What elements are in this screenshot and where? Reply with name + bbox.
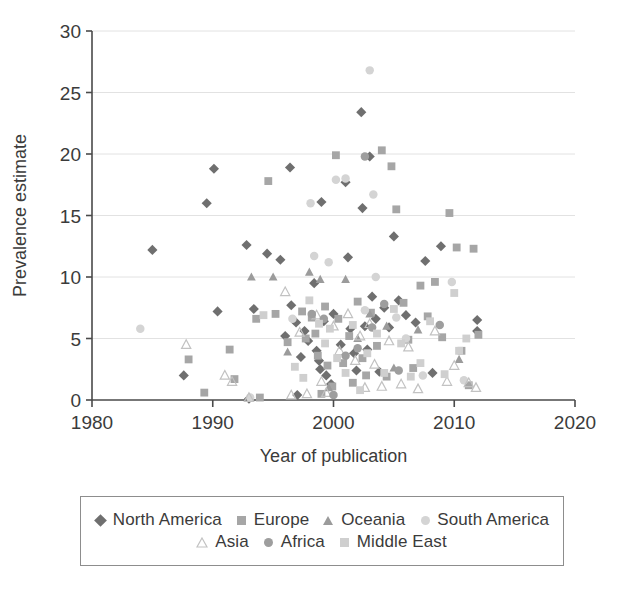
- data-point: [311, 330, 319, 338]
- y-tick-label: 30: [60, 21, 81, 42]
- data-point: [285, 162, 295, 172]
- data-point: [470, 245, 478, 253]
- data-point: [264, 177, 272, 185]
- data-point: [401, 310, 411, 320]
- data-point: [462, 335, 470, 343]
- x-tick-label: 1980: [71, 412, 113, 433]
- data-point: [394, 366, 402, 374]
- legend-item-europe[interactable]: Europe: [236, 510, 309, 530]
- data-point: [349, 321, 357, 329]
- data-point: [281, 287, 290, 296]
- data-point: [269, 272, 278, 280]
- data-point: [310, 252, 318, 260]
- data-point: [407, 373, 415, 381]
- y-tick-label: 10: [60, 267, 81, 288]
- data-point: [324, 258, 332, 266]
- data-point: [413, 384, 422, 393]
- data-point: [260, 311, 268, 319]
- data-point: [316, 275, 325, 283]
- x-tick-label: 2000: [312, 412, 354, 433]
- data-point: [275, 255, 285, 265]
- chart-plot-area: 05101520253019801990200020102020Year of …: [0, 0, 620, 480]
- legend-item-africa[interactable]: Africa: [263, 532, 325, 552]
- data-point: [249, 304, 259, 314]
- data-point: [353, 344, 361, 352]
- data-point: [202, 198, 212, 208]
- legend-item-north-america[interactable]: North America: [95, 510, 222, 530]
- data-point: [411, 317, 421, 327]
- data-point: [341, 174, 349, 182]
- data-point: [431, 278, 439, 286]
- x-tick-label: 1990: [192, 412, 234, 433]
- data-point: [209, 164, 219, 174]
- data-point: [356, 107, 366, 117]
- data-point: [370, 360, 379, 369]
- data-point: [296, 352, 306, 362]
- figure-caption-partial: [0, 578, 620, 594]
- data-point: [441, 370, 449, 378]
- data-point: [450, 289, 458, 297]
- legend-item-south-america[interactable]: South America: [419, 510, 549, 530]
- data-point: [341, 275, 350, 283]
- data-point: [400, 299, 408, 307]
- data-point: [200, 389, 208, 397]
- data-point: [455, 355, 464, 363]
- data-point: [354, 298, 362, 306]
- data-point: [286, 300, 296, 310]
- data-point: [474, 331, 482, 339]
- data-point: [306, 199, 314, 207]
- data-point: [332, 176, 340, 184]
- y-tick-label: 15: [60, 206, 81, 227]
- data-point: [384, 336, 393, 345]
- series-south-america: [136, 66, 468, 402]
- data-point: [226, 346, 234, 354]
- legend-item-asia[interactable]: Asia: [197, 532, 248, 552]
- data-point: [343, 252, 353, 262]
- data-point: [179, 370, 189, 380]
- data-point: [213, 306, 223, 316]
- data-point: [315, 320, 323, 328]
- data-point: [305, 296, 313, 304]
- triangle-open-marker-icon: [197, 536, 209, 548]
- data-point: [417, 359, 425, 367]
- data-point: [182, 340, 191, 349]
- data-point: [334, 315, 342, 323]
- data-point: [397, 379, 406, 388]
- data-point: [448, 278, 456, 286]
- data-point: [377, 382, 386, 391]
- legend-row-2: AsiaAfricaMiddle East: [197, 532, 446, 552]
- circle-marker-icon: [263, 536, 275, 548]
- data-point: [321, 303, 329, 311]
- x-tick-label: 2010: [433, 412, 475, 433]
- data-point: [308, 310, 316, 318]
- data-point: [351, 365, 361, 375]
- data-point: [417, 282, 425, 290]
- data-point: [324, 362, 332, 370]
- circle-light-marker-icon: [419, 514, 431, 526]
- data-point: [397, 340, 405, 348]
- data-point: [363, 349, 371, 357]
- data-point: [356, 386, 364, 394]
- data-point: [252, 315, 260, 323]
- x-tick-label: 2020: [554, 412, 596, 433]
- data-point: [329, 391, 337, 399]
- y-tick-label: 20: [60, 144, 81, 165]
- legend-item-middle-east[interactable]: Middle East: [339, 532, 447, 552]
- data-point: [288, 315, 296, 323]
- y-tick-label: 25: [60, 83, 81, 104]
- data-point: [362, 371, 370, 379]
- data-point: [241, 240, 251, 250]
- data-point: [420, 256, 430, 266]
- data-point: [378, 146, 386, 154]
- legend-item-oceania[interactable]: Oceania: [323, 510, 405, 530]
- data-point: [316, 197, 326, 207]
- square-light-marker-icon: [339, 536, 351, 548]
- y-axis-label: Prevalence estimate: [10, 134, 30, 297]
- data-point: [389, 231, 399, 241]
- x-axis-label: Year of publication: [260, 446, 407, 466]
- data-point: [314, 352, 322, 360]
- data-point: [291, 363, 299, 371]
- data-point: [388, 162, 396, 170]
- data-point: [361, 306, 369, 314]
- data-point: [272, 310, 280, 318]
